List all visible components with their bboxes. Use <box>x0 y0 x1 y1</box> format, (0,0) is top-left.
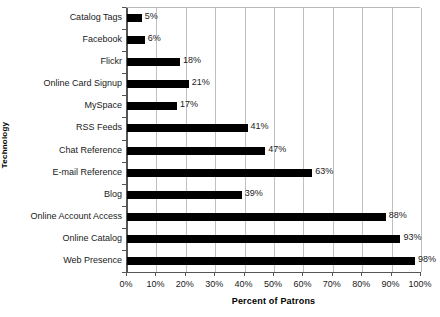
bar-row[interactable]: 63% <box>127 163 421 184</box>
bar-row[interactable]: 47% <box>127 141 421 162</box>
bar-row[interactable]: 17% <box>127 96 421 117</box>
x-tick-mark <box>214 272 215 276</box>
y-tick-mark <box>122 162 126 163</box>
bar-value-label: 93% <box>403 231 421 243</box>
x-tick-mark <box>391 272 392 276</box>
bar-row[interactable]: 88% <box>127 207 421 228</box>
y-tick-mark <box>122 95 126 96</box>
bar-value-label: 39% <box>245 187 263 199</box>
x-tick-label: 100% <box>400 278 440 290</box>
y-axis-category-label: Flickr <box>2 55 122 67</box>
y-axis-category-label: RSS Feeds <box>2 121 122 133</box>
y-axis-category-label: Chat Reference <box>2 144 122 156</box>
bar[interactable] <box>127 147 265 155</box>
y-tick-mark <box>122 73 126 74</box>
bar[interactable] <box>127 124 248 132</box>
bar-row[interactable]: 41% <box>127 118 421 139</box>
bar-value-label: 41% <box>251 120 269 132</box>
bar[interactable] <box>127 235 400 243</box>
y-axis-category-label: Web Presence <box>2 254 122 266</box>
bar[interactable] <box>127 36 145 44</box>
bar-value-label: 5% <box>145 10 158 22</box>
y-tick-mark <box>122 184 126 185</box>
bar[interactable] <box>127 169 312 177</box>
bar[interactable] <box>127 213 386 221</box>
x-tick-mark <box>155 272 156 276</box>
bar-value-label: 98% <box>418 253 436 265</box>
y-axis-category-label: Online Card Signup <box>2 77 122 89</box>
bar-value-label: 88% <box>389 209 407 221</box>
y-axis-category-label: Catalog Tags <box>2 11 122 23</box>
bar-row[interactable]: 5% <box>127 8 421 29</box>
bar[interactable] <box>127 80 189 88</box>
y-tick-mark <box>122 7 126 8</box>
x-tick-mark <box>244 272 245 276</box>
x-tick-mark <box>302 272 303 276</box>
y-tick-mark <box>122 250 126 251</box>
y-axis-category-labels: Catalog TagsFacebookFlickrOnline Card Si… <box>0 7 122 272</box>
bar-row[interactable]: 98% <box>127 251 421 272</box>
x-tick-mark <box>361 272 362 276</box>
bar[interactable] <box>127 191 242 199</box>
bar-row[interactable]: 18% <box>127 52 421 73</box>
y-axis-category-label: E-mail Reference <box>2 166 122 178</box>
y-axis-category-label: Online Catalog <box>2 232 122 244</box>
bar-value-label: 47% <box>268 143 286 155</box>
y-tick-mark <box>122 117 126 118</box>
x-axis-title: Percent of Patrons <box>126 296 421 306</box>
bar[interactable] <box>127 14 142 22</box>
bar-value-label: 17% <box>180 98 198 110</box>
x-tick-mark <box>185 272 186 276</box>
bar[interactable] <box>127 58 180 66</box>
bar-value-label: 63% <box>315 165 333 177</box>
y-axis-category-label: Online Account Access <box>2 210 122 222</box>
y-tick-mark <box>122 228 126 229</box>
y-tick-mark <box>122 140 126 141</box>
y-tick-mark <box>122 51 126 52</box>
plot-area: 5%6%18%21%17%41%47%63%39%88%93%98% <box>126 7 420 272</box>
bar-row[interactable]: 93% <box>127 229 421 250</box>
bar-row[interactable]: 39% <box>127 185 421 206</box>
x-tick-mark <box>126 272 127 276</box>
y-tick-mark <box>122 29 126 30</box>
bar-value-label: 6% <box>148 32 161 44</box>
x-tick-mark <box>420 272 421 276</box>
bar[interactable] <box>127 257 415 265</box>
y-axis-category-label: Blog <box>2 188 122 200</box>
bar-value-label: 21% <box>192 76 210 88</box>
bar[interactable] <box>127 102 177 110</box>
bar-value-label: 18% <box>183 54 201 66</box>
bar-row[interactable]: 6% <box>127 30 421 51</box>
y-tick-mark <box>122 206 126 207</box>
x-tick-mark <box>273 272 274 276</box>
y-axis-category-label: MySpace <box>2 99 122 111</box>
x-tick-mark <box>332 272 333 276</box>
y-axis-category-label: Facebook <box>2 33 122 45</box>
y-tick-mark <box>122 272 126 273</box>
bar-row[interactable]: 21% <box>127 74 421 95</box>
